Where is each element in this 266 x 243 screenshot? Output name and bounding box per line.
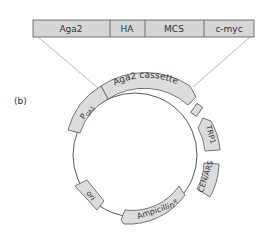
plasmid-diagram: Aga2 HA MCS c-myc (b) Aga2 cassette PGA1… — [0, 0, 266, 243]
expansion-line-right — [193, 37, 250, 87]
segment-mcs: MCS — [164, 24, 184, 34]
feature-terminator — [191, 103, 203, 116]
feature-ampicillin — [121, 186, 185, 224]
panel-label: (b) — [14, 96, 27, 106]
segment-cmyc: c-myc — [215, 24, 242, 34]
expansion-line-left — [38, 37, 98, 88]
segment-aga2: Aga2 — [59, 24, 82, 34]
cassette-bar: Aga2 HA MCS c-myc — [33, 20, 254, 37]
segment-ha: HA — [121, 24, 135, 34]
